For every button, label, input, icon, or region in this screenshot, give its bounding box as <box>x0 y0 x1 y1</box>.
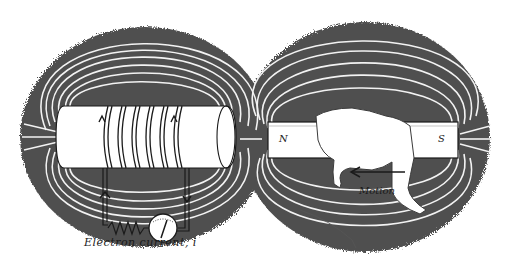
diagram-canvas <box>0 0 513 259</box>
motion-label: Motion <box>359 185 395 196</box>
north-pole-label: N <box>279 133 288 144</box>
south-pole-label: S <box>438 133 445 144</box>
electron-current-caption: Electron current, i <box>84 236 197 249</box>
coil-cylinder <box>56 106 236 168</box>
induction-diagram: N S Motion Electron current, i <box>0 0 513 259</box>
